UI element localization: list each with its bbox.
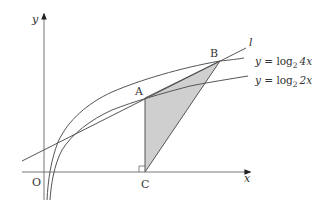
- log-functions-diagram: y x O A B C l y = log24x y = log22x: [0, 0, 325, 204]
- line-l-label: l: [249, 36, 253, 49]
- x-axis-label: x: [244, 172, 251, 185]
- curve-label-eq: = log: [261, 55, 293, 67]
- line-l: [22, 48, 246, 161]
- curve-label-arg: 2x: [299, 74, 313, 86]
- y-axis-label: y: [31, 13, 39, 26]
- curve-label-log2-2x: y = log22x: [254, 74, 312, 89]
- curve-label-log2-4x: y = log24x: [254, 55, 312, 70]
- point-b-label: B: [210, 47, 218, 60]
- curve-label-arg: 4x: [299, 55, 313, 67]
- curve-label-eq: = log: [261, 74, 293, 86]
- triangle-abc-shaded: [145, 61, 220, 172]
- point-c-label: C: [141, 178, 149, 191]
- origin-label: O: [32, 176, 41, 189]
- point-a-label: A: [134, 85, 144, 98]
- curve-label-base: 2: [293, 61, 298, 70]
- right-angle-marker: [139, 166, 145, 172]
- curve-label-base: 2: [293, 80, 298, 89]
